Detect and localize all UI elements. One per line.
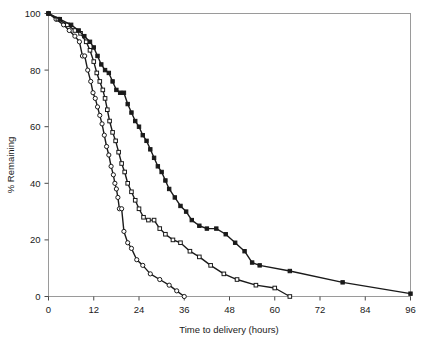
data-point (341, 281, 344, 284)
x-tick-label-12: 12 (88, 304, 99, 315)
data-point (137, 125, 140, 128)
data-point (160, 170, 163, 173)
data-point (84, 40, 88, 44)
data-point (149, 148, 152, 151)
data-point (114, 187, 118, 191)
data-point (101, 88, 105, 92)
data-point (184, 210, 187, 213)
data-point (148, 272, 152, 276)
data-point (103, 68, 106, 71)
data-point (126, 241, 130, 245)
data-point (135, 258, 139, 262)
data-point (198, 255, 202, 259)
y-tick-label-60: 60 (30, 121, 41, 132)
x-tick-label-72: 72 (315, 304, 326, 315)
data-point (222, 272, 226, 276)
y-tick-label-40: 40 (30, 178, 41, 189)
y-tick-label-0: 0 (35, 291, 40, 302)
data-point (86, 68, 90, 72)
data-point (77, 40, 81, 44)
data-point (120, 162, 124, 166)
data-point (91, 91, 95, 95)
y-tick-label-80: 80 (30, 65, 41, 76)
data-point (188, 249, 192, 253)
data-point (182, 294, 186, 298)
data-point (113, 181, 117, 185)
x-tick-label-48: 48 (224, 304, 235, 315)
y-axis-ticks (45, 14, 49, 297)
data-point (173, 196, 176, 199)
x-axis-ticks (49, 297, 411, 301)
data-point (273, 286, 277, 290)
data-point (243, 250, 246, 253)
data-point (117, 150, 121, 154)
data-point (233, 241, 236, 244)
data-point (93, 96, 97, 100)
data-point (130, 111, 133, 114)
data-point (133, 198, 137, 202)
plot-area-border (49, 14, 411, 297)
data-point (134, 119, 137, 122)
data-point (224, 233, 227, 236)
y-tick-label-20: 20 (30, 234, 41, 245)
data-point (96, 54, 99, 57)
data-point (69, 23, 72, 26)
data-point (215, 227, 218, 230)
data-point (209, 264, 213, 268)
data-point (198, 224, 201, 227)
data-point (122, 91, 125, 94)
data-point (100, 63, 103, 66)
data-point (67, 28, 71, 32)
data-point (147, 218, 151, 222)
x-tick-label-24: 24 (134, 304, 145, 315)
data-point (179, 204, 182, 207)
data-point (103, 97, 107, 101)
data-point (167, 283, 171, 287)
data-point (126, 182, 130, 186)
data-point (114, 139, 118, 143)
data-point (92, 46, 95, 49)
data-point (115, 88, 118, 91)
data-point (288, 295, 292, 299)
data-point (106, 108, 110, 112)
survival-curve-chart: 01224364860728496 020406080100 Time to d… (0, 0, 426, 344)
y-tick-label-100: 100 (25, 8, 41, 19)
data-point (171, 238, 175, 242)
data-point (95, 105, 99, 109)
data-point (107, 153, 111, 157)
data-point (126, 102, 129, 105)
data-point (92, 60, 96, 64)
data-point (104, 144, 108, 148)
data-point (164, 179, 167, 182)
data-point (205, 227, 208, 230)
data-point (156, 165, 159, 168)
data-point (77, 29, 80, 32)
data-point (118, 91, 121, 94)
x-tick-label-0: 0 (46, 304, 51, 315)
data-point (73, 34, 77, 38)
data-point (123, 170, 127, 174)
data-point (158, 227, 162, 231)
data-point (164, 232, 168, 236)
x-axis-title: Time to delivery (hours) (179, 324, 278, 335)
data-point (250, 261, 253, 264)
data-point (288, 269, 291, 272)
data-point (175, 289, 179, 293)
data-point (190, 218, 193, 221)
data-point (108, 119, 112, 123)
data-point (254, 283, 258, 287)
chart-figure: 01224364860728496 020406080100 Time to d… (0, 0, 426, 344)
data-point (107, 71, 110, 74)
data-point (89, 79, 93, 83)
x-axis-tick-labels: 01224364860728496 (46, 304, 416, 315)
data-point (142, 215, 146, 219)
data-point (129, 246, 133, 250)
data-point (100, 122, 104, 126)
x-tick-label-84: 84 (360, 304, 371, 315)
data-point (158, 277, 162, 281)
data-point (235, 278, 239, 282)
data-point (122, 229, 126, 233)
data-point (98, 80, 102, 84)
data-point (83, 54, 87, 58)
data-point (152, 218, 156, 222)
